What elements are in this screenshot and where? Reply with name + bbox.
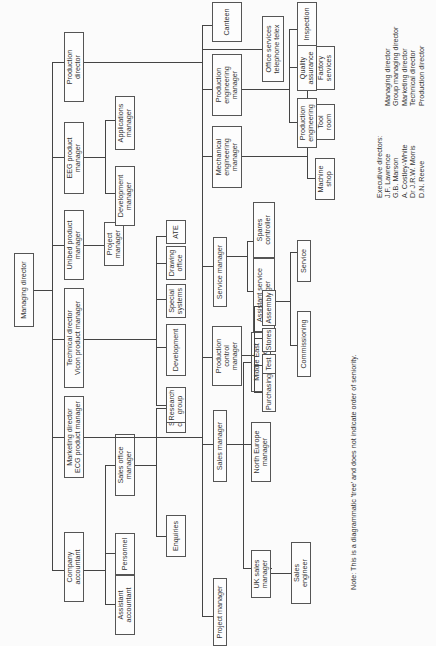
node-marketing-director: Marketing director ECG product manager (64, 396, 84, 478)
connector-spine (52, 62, 53, 571)
connector (84, 62, 202, 63)
node-eeg-product-manager: EEG product manager (64, 122, 84, 194)
node-test: Test (262, 354, 276, 374)
connector (202, 26, 203, 358)
connector (52, 339, 64, 340)
connector (105, 604, 115, 605)
connector (275, 301, 290, 302)
connector (202, 50, 203, 51)
node-project-manager-marketing: Project manager (213, 578, 227, 646)
connector (202, 357, 212, 358)
connector (156, 409, 157, 537)
connector (254, 365, 262, 366)
node-development: Development (166, 324, 186, 376)
connector (227, 256, 247, 257)
node-research-group: Research group (166, 387, 186, 423)
connector (202, 25, 212, 26)
connector (271, 568, 272, 569)
connector (105, 193, 115, 194)
node-personnel: Personnel (115, 533, 135, 575)
connector (105, 120, 115, 121)
footnote: Note: This is a diagrammatic 'tree' and … (350, 355, 358, 590)
connector (289, 122, 297, 123)
node-production-director: Production director (64, 32, 84, 102)
connector (52, 570, 64, 571)
node-factory-services: Factory services (315, 46, 335, 90)
org-chart: Managing director Company accountant Mar… (0, 0, 436, 646)
connector (202, 266, 213, 267)
connector (84, 437, 202, 438)
node-development-manager: Development manager (115, 166, 135, 226)
connector (254, 392, 262, 393)
node-service-manager: Service manager (213, 237, 227, 307)
connector (202, 49, 262, 50)
connector (84, 339, 156, 340)
connector (156, 347, 166, 348)
connector (242, 89, 289, 90)
connector (156, 536, 166, 537)
connector (227, 444, 243, 445)
connector (242, 355, 254, 356)
node-assembly: Assembly (262, 290, 276, 326)
connector (84, 570, 105, 571)
connector (254, 338, 262, 339)
node-uk-sales-manager: UK sales manager (251, 550, 271, 598)
node-sales-office-manager: Sales office manager (115, 434, 135, 496)
connector (290, 252, 297, 253)
node-purchasing: Purchasing (262, 372, 276, 412)
connector (289, 29, 297, 30)
node-north-europe-manager: North Europe manager (251, 422, 271, 482)
connector (247, 242, 248, 292)
connector (52, 157, 64, 158)
connector (289, 30, 290, 123)
connector (84, 245, 104, 246)
node-tool-room: Tool room (315, 104, 335, 140)
executive-directors-names: J.F. Lawrence G.B. Marson A. Costley-Whi… (384, 144, 426, 198)
node-applications-manager: Applications manager (115, 96, 135, 150)
node-company-accountant: Company accountant (64, 532, 84, 602)
connector (254, 307, 255, 393)
connector (290, 253, 291, 346)
connector (243, 363, 244, 569)
node-canteen: Canteen (212, 2, 242, 42)
connector (243, 568, 251, 569)
node-drawing-office: Drawing office (166, 246, 186, 280)
node-project-manager-unibed: Project manager (104, 222, 124, 266)
connector (202, 616, 213, 617)
node-service: Service (297, 240, 311, 282)
connector (202, 89, 212, 90)
connector (243, 444, 251, 445)
node-assistant-accountant: Assistant accountant (115, 575, 135, 635)
connector (289, 67, 297, 68)
connector (135, 465, 156, 466)
node-commissioning: Commissioning (297, 311, 311, 377)
node-enquiries: Enquiries (166, 515, 186, 557)
node-inspection: Inspection (297, 2, 317, 46)
node-production-engineering: Production engineering (297, 98, 317, 148)
node-ate: ATE (166, 220, 186, 244)
connector (243, 362, 251, 363)
connector (84, 157, 105, 158)
connector (307, 178, 315, 179)
node-office-services: Office services telephone telex (262, 16, 284, 82)
connector (105, 466, 106, 605)
node-technical-director: Technical director Vicon product manager (64, 288, 84, 388)
connector (271, 573, 291, 574)
connector (105, 121, 106, 194)
node-machine-shop: Machine shop (315, 158, 335, 200)
connector (202, 444, 213, 445)
node-managing-director: Managing director (14, 253, 34, 327)
connector (105, 553, 115, 554)
connector (254, 306, 262, 307)
connector (290, 345, 297, 346)
node-spares-controller: Spares controller (253, 202, 275, 258)
connector (156, 299, 166, 300)
connector (52, 437, 64, 438)
connector (156, 408, 166, 409)
connector (105, 465, 115, 466)
node-stores: Stores (262, 328, 276, 352)
connector (242, 156, 307, 157)
connector (156, 263, 166, 264)
node-production-control-manager: Production control manager (212, 326, 242, 386)
node-production-engineering-manager: Production engineering manager (212, 54, 242, 116)
